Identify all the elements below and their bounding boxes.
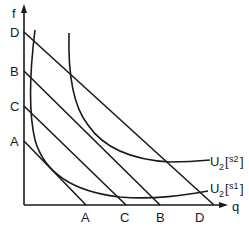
svg-text:U: U: [210, 154, 219, 169]
svg-text:U: U: [210, 181, 219, 196]
y-intercept-a-label: A: [10, 134, 19, 149]
q-axis-label: q: [232, 199, 239, 214]
x-intercept-b-label: B: [156, 210, 165, 225]
curve-label-u2-s2: U 2 [ s2 ]: [210, 154, 244, 172]
y-intercept-b-label: B: [10, 64, 19, 79]
indifference-curve-u2-s1: [30, 30, 208, 198]
indifference-curve-u2-s2: [69, 33, 210, 162]
curve-label-u2-s1: U 2 [ s1 ]: [210, 181, 244, 199]
indifference-diagram: f q A C B D A C B D U 2 [ s2 ] U 2 [ s1 …: [0, 0, 249, 226]
svg-text:s1: s1: [229, 181, 239, 191]
svg-text:2: 2: [219, 189, 224, 199]
budget-line-d: [24, 32, 214, 205]
f-axis-label: f: [12, 6, 16, 21]
x-intercept-a-label: A: [81, 210, 90, 225]
svg-text:s2: s2: [229, 154, 239, 164]
svg-text:]: ]: [240, 154, 244, 169]
svg-text:2: 2: [219, 162, 224, 172]
x-intercept-c-label: C: [120, 210, 129, 225]
q-axis-arrow-icon: [219, 202, 228, 208]
f-axis-arrow-icon: [21, 4, 27, 13]
y-intercept-d-label: D: [10, 25, 19, 40]
x-intercept-d-label: D: [195, 210, 204, 225]
y-intercept-c-label: C: [10, 99, 19, 114]
svg-text:]: ]: [240, 181, 244, 196]
